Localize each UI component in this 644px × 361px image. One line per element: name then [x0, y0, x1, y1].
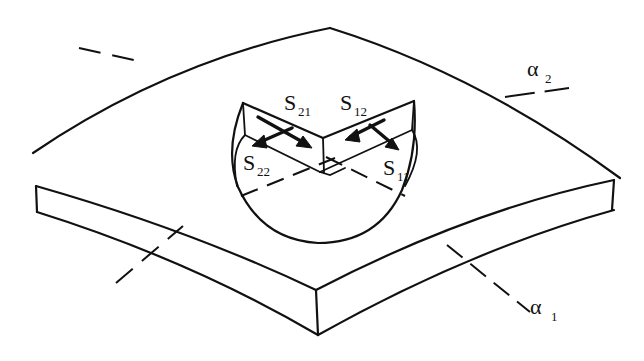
svg-text:S: S [340, 90, 352, 115]
label-s11: S 11 [383, 155, 410, 184]
arrow-s22-head [252, 135, 267, 148]
svg-text:S: S [243, 150, 255, 175]
svg-text:21: 21 [298, 104, 311, 119]
svg-text:2: 2 [545, 71, 552, 86]
arrow-s12-head [345, 129, 360, 142]
svg-text:12: 12 [354, 104, 367, 119]
svg-text:S: S [284, 90, 296, 115]
label-alpha2: α 2 [527, 56, 552, 86]
svg-text:α: α [530, 294, 542, 319]
svg-text:α: α [527, 56, 539, 81]
svg-text:1: 1 [551, 309, 558, 324]
svg-text:S: S [383, 155, 395, 180]
axis-alpha2-line [79, 48, 569, 97]
svg-text:11: 11 [397, 169, 410, 184]
label-s21: S 21 [284, 90, 311, 119]
label-s22: S 22 [243, 150, 270, 179]
axis-alpha1-line [116, 226, 530, 312]
svg-text:22: 22 [257, 164, 270, 179]
label-alpha1: α 1 [530, 294, 558, 324]
shell-element-diagram: S 21 S 12 S 22 S 11 α 2 α 1 [0, 0, 644, 361]
label-s12: S 12 [340, 90, 367, 119]
